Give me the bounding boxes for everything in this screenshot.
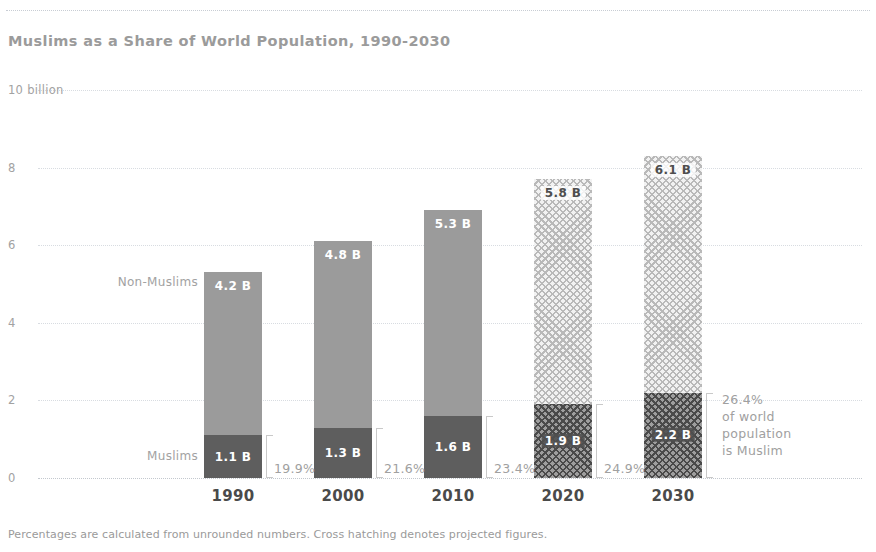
percent-label-2020: 24.9% [604, 461, 645, 476]
bar-group-2020: 5.8 B1.9 B [534, 179, 592, 478]
chart-plot-area: Muslims as a Share of World Population, … [0, 0, 876, 552]
bar-value-muslims-2020: 1.9 B [542, 434, 585, 448]
top-divider [6, 10, 870, 11]
y-tick-label-6: 6 [8, 238, 16, 252]
x-tick-label-2000: 2000 [314, 487, 372, 505]
bar-segment-non-muslims-2020: 5.8 B [534, 179, 592, 404]
callout-line-1: 26.4% [722, 391, 792, 408]
bar-value-muslims-2010: 1.6 B [424, 440, 482, 454]
bar-segment-non-muslims-2010: 5.3 B [424, 210, 482, 416]
y-tick-label-4: 4 [8, 316, 16, 330]
percent-bracket-2030 [706, 393, 713, 478]
bar-value-non-muslims-2000: 4.8 B [314, 248, 372, 262]
gridline-0 [38, 478, 862, 479]
y-tick-label-8: 8 [8, 161, 16, 175]
series-label-non-muslims: Non-Muslims [60, 275, 198, 289]
x-tick-label-2020: 2020 [534, 487, 592, 505]
bar-segment-muslims-1990: 1.1 B [204, 435, 262, 478]
y-tick-label-10: 10 billion [8, 83, 64, 97]
percent-bracket-2000 [376, 428, 383, 478]
bar-segment-muslims-2030: 2.2 B [644, 393, 702, 478]
bar-group-1990: 4.2 B1.1 B [204, 272, 262, 478]
x-tick-label-2030: 2030 [644, 487, 702, 505]
percent-bracket-2010 [486, 416, 493, 478]
bar-group-2010: 5.3 B1.6 B [424, 210, 482, 478]
y-tick-label-0: 0 [8, 471, 16, 485]
x-tick-label-2010: 2010 [424, 487, 482, 505]
bar-value-muslims-1990: 1.1 B [204, 449, 262, 463]
callout-line-2: of world [722, 408, 792, 425]
bar-segment-muslims-2000: 1.3 B [314, 428, 372, 478]
bar-value-non-muslims-2030: 6.1 B [651, 163, 696, 177]
callout-line-3: population [722, 425, 792, 442]
percent-label-2010: 23.4% [494, 461, 535, 476]
bar-segment-muslims-2010: 1.6 B [424, 416, 482, 478]
bar-value-non-muslims-2010: 5.3 B [424, 217, 482, 231]
bar-segment-muslims-2020: 1.9 B [534, 404, 592, 478]
gridline-8 [38, 168, 862, 169]
bar-group-2030: 6.1 B2.2 B [644, 156, 702, 478]
bar-value-non-muslims-2020: 5.8 B [541, 186, 586, 200]
percent-label-2000: 21.6% [384, 461, 425, 476]
bar-segment-non-muslims-2000: 4.8 B [314, 241, 372, 427]
bar-value-muslims-2030: 2.2 B [652, 428, 695, 442]
callout-line-4: is Muslim [722, 442, 792, 459]
y-tick-label-2: 2 [8, 393, 16, 407]
percent-label-1990: 19.9% [274, 461, 315, 476]
percent-bracket-2020 [596, 404, 603, 478]
callout-2030: 26.4% of world population is Muslim [722, 391, 792, 459]
x-tick-label-1990: 1990 [204, 487, 262, 505]
percent-bracket-1990 [266, 435, 273, 478]
bar-value-muslims-2000: 1.3 B [314, 446, 372, 460]
bar-value-non-muslims-1990: 4.2 B [204, 279, 262, 293]
chart-footnote: Percentages are calculated from unrounde… [8, 528, 547, 541]
bar-group-2000: 4.8 B1.3 B [314, 241, 372, 478]
bar-segment-non-muslims-2030: 6.1 B [644, 156, 702, 393]
series-label-muslims: Muslims [60, 449, 198, 463]
gridline-10 [38, 90, 862, 91]
page-title: Muslims as a Share of World Population, … [8, 33, 450, 49]
bar-segment-non-muslims-1990: 4.2 B [204, 272, 262, 435]
